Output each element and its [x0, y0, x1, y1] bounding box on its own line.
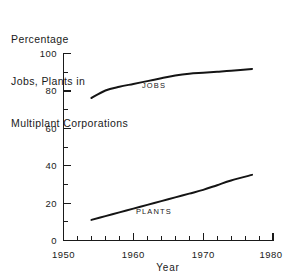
- chart-figure: Percentage Jobs, Plants in Multiplant Co…: [0, 0, 289, 278]
- y-tick-label-0: 0: [51, 235, 57, 246]
- y-tick-label-100: 100: [40, 48, 57, 59]
- y-tick-label-80: 80: [45, 85, 57, 96]
- series-label-jobs: JOBS: [142, 81, 166, 90]
- series-curve-jobs: [91, 69, 252, 98]
- x-tick-label-1950: 1950: [52, 249, 75, 260]
- x-tick-label-1960: 1960: [122, 249, 145, 260]
- plot-area: 100 80 60 40 20 0 1950 1960 1970 1980 Ye…: [0, 0, 289, 278]
- y-tick-label-60: 60: [45, 123, 57, 134]
- x-axis-minor-ticks: [78, 236, 260, 241]
- x-tick-label-1980: 1980: [259, 249, 282, 260]
- y-axis-minor-ticks: [64, 72, 69, 222]
- x-tick-label-1970: 1970: [192, 249, 215, 260]
- series-label-plants: PLANTS: [136, 207, 172, 216]
- y-axis-tick-labels: 100 80 60 40 20 0: [40, 48, 57, 246]
- x-axis-title: Year: [156, 262, 179, 273]
- y-tick-label-20: 20: [45, 198, 57, 209]
- x-axis-major-ticks: [64, 233, 274, 241]
- x-axis-tick-labels: 1950 1960 1970 1980: [52, 249, 283, 260]
- y-tick-label-40: 40: [45, 160, 57, 171]
